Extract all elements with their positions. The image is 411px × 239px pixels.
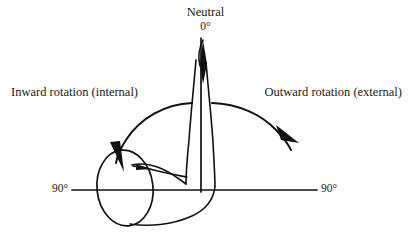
rotation-range-of-motion-figure: Neutral 0° Inward rotation (internal) Ou… xyxy=(0,0,411,239)
outward-rotation-arrowhead xyxy=(276,125,299,143)
shin-left-contour xyxy=(186,60,196,184)
rotation-diagram-drawing xyxy=(0,0,411,239)
heel-ellipse xyxy=(93,147,157,228)
shin-right-contour xyxy=(206,62,215,186)
inward-rotation-arc xyxy=(116,103,192,163)
outward-rotation-arc xyxy=(212,103,291,150)
